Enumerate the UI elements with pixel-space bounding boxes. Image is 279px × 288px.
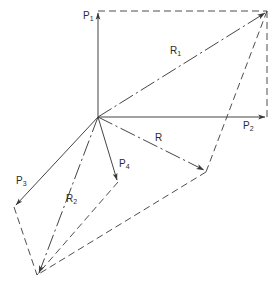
vector-r [98,117,204,170]
label-p2: P2 [243,121,254,131]
label-p4: P4 [119,159,130,169]
label-r2: R2 [66,194,77,204]
vector-p3 [16,117,98,205]
label-p3: P3 [16,176,27,186]
vector-p4 [98,117,117,180]
construction-line-upper-to-rtip [206,11,267,172]
construction-line-rtip-to-lower [37,172,206,275]
diagram-svg [0,0,279,288]
label-p1: P1 [83,11,94,21]
vector-diagram-canvas: P1 P2 P3 P4 R R1 R2 [0,0,279,288]
construction-line-p3-to-lower [14,207,37,275]
label-r1: R1 [170,46,181,56]
vector-r1 [98,13,265,117]
label-r: R [155,133,162,143]
